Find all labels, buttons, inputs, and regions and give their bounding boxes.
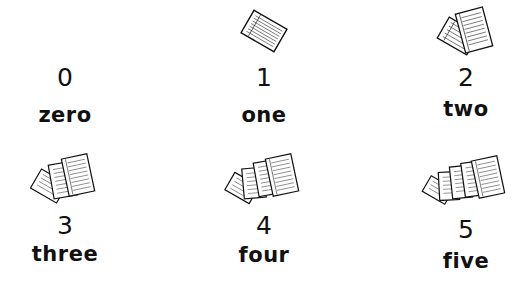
number-word: five — [386, 248, 523, 274]
number-word: three — [0, 241, 145, 267]
paper-stack-5-icon — [386, 152, 523, 212]
numeral: 5 — [386, 216, 523, 244]
numeral: 4 — [184, 212, 344, 240]
paper-sheets-icon — [25, 150, 105, 206]
paper-stack-4-icon — [184, 150, 344, 210]
numeral: 3 — [0, 212, 145, 240]
numeral: 1 — [184, 64, 344, 92]
paper-sheet-icon — [229, 5, 299, 57]
number-word: two — [386, 96, 523, 122]
numeral: 2 — [386, 64, 523, 92]
numeral: 0 — [0, 64, 145, 92]
paper-stack-1-icon — [184, 5, 344, 65]
number-word: one — [184, 102, 344, 128]
paper-sheets-icon — [222, 150, 306, 206]
paper-sheets-icon — [420, 152, 512, 208]
number-word: four — [184, 242, 344, 268]
number-word: zero — [0, 102, 145, 128]
paper-stack-3-icon — [0, 150, 145, 210]
paper-stack-2-icon — [386, 2, 523, 62]
paper-sheets-icon — [426, 2, 506, 60]
